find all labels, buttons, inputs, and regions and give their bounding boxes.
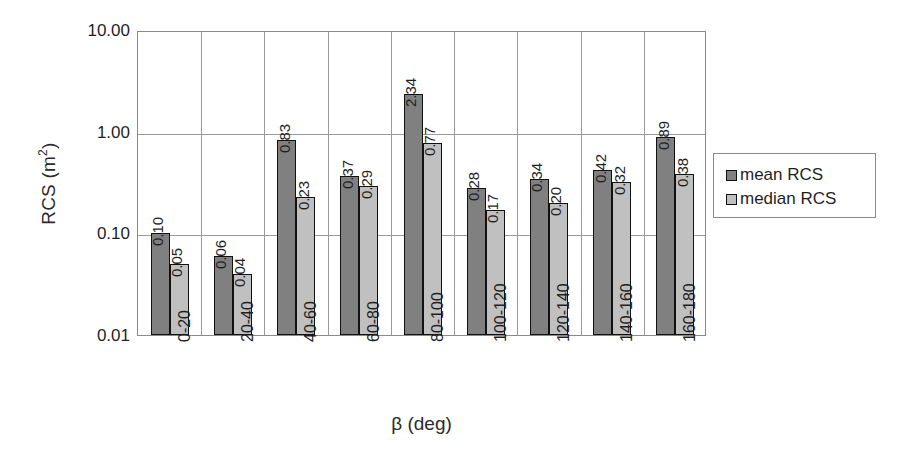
bar-value-label: 2.34	[402, 78, 419, 107]
x-axis-tick-label: 40-60	[302, 301, 320, 342]
bar-value-label: 0.89	[655, 121, 672, 150]
gridline-vertical	[581, 32, 582, 335]
bar-value-label: 0.38	[674, 158, 691, 187]
gridline-vertical	[201, 32, 202, 335]
bar-value-label: 0.37	[339, 159, 356, 188]
x-axis-tick-label: 140-160	[618, 283, 636, 342]
bar-value-label: 0.28	[465, 172, 482, 201]
bar-mean	[404, 94, 423, 335]
y-axis-tick-label: 0.01	[10, 326, 130, 346]
bar-value-label: 0.17	[484, 194, 501, 223]
y-axis-tick-label: 10.00	[10, 21, 130, 41]
bar-value-label: 0.42	[592, 154, 609, 183]
gridline-vertical	[328, 32, 329, 335]
legend-swatch-icon	[726, 170, 737, 181]
bar-value-label: 0.04	[231, 258, 248, 287]
x-axis-tick-label: 100-120	[492, 283, 510, 342]
bar-mean	[151, 233, 170, 335]
legend-item: mean RCS	[726, 163, 875, 187]
bar-value-label: 0.05	[168, 248, 185, 277]
legend-item: median RCS	[726, 187, 875, 211]
bar-value-label: 0.06	[212, 240, 229, 269]
x-axis-tick-label: 60-80	[365, 301, 383, 342]
gridline-vertical	[454, 32, 455, 335]
legend-item-label: median RCS	[740, 189, 836, 209]
y-axis-tick-label: 0.10	[10, 224, 130, 244]
bar-value-label: 0.77	[421, 127, 438, 156]
bar-value-label: 0.20	[547, 187, 564, 216]
x-axis-tick-label: 20-40	[239, 301, 257, 342]
x-axis-tick-label: 120-140	[555, 283, 573, 342]
x-axis-tick-label: 80-100	[429, 292, 447, 342]
rcs-vs-beta-bar-chart: RCS (m2) 10.001.000.100.01 0.100.050.060…	[0, 0, 914, 453]
legend-item-label: mean RCS	[740, 165, 823, 185]
gridline-vertical	[391, 32, 392, 335]
x-axis-title: β (deg)	[137, 413, 706, 435]
gridline-vertical	[644, 32, 645, 335]
gridline-vertical	[517, 32, 518, 335]
bar-value-label: 0.32	[611, 166, 628, 195]
x-axis-tick-label: 0-20	[176, 310, 194, 342]
gridline-vertical	[264, 32, 265, 335]
bar-mean	[593, 170, 612, 335]
bar-value-label: 0.10	[149, 217, 166, 246]
x-axis-tick-label: 160-180	[681, 283, 699, 342]
x-axis-tick-labels: 0-2020-4040-6060-8080-100100-120120-1401…	[137, 336, 706, 416]
bar-mean	[340, 176, 359, 335]
y-axis-tick-labels: 10.001.000.100.01	[6, 31, 130, 336]
bar-mean	[277, 140, 296, 335]
legend-swatch-icon	[726, 194, 737, 205]
y-axis-tick-label: 1.00	[10, 123, 130, 143]
bar-mean	[656, 137, 675, 335]
bar-value-label: 0.29	[358, 170, 375, 199]
bar-value-label: 0.34	[528, 163, 545, 192]
bar-value-label: 0.83	[276, 124, 293, 153]
legend: mean RCSmedian RCS	[713, 153, 876, 218]
bar-mean	[467, 188, 486, 335]
bar-value-label: 0.23	[295, 180, 312, 209]
